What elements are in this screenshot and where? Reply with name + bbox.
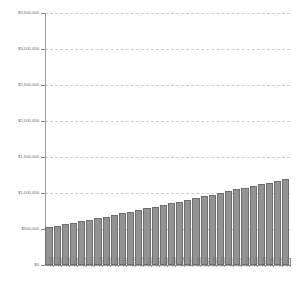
y-axis-tick-label: $1,500,000 [0,155,39,159]
x-axis-tick-label: 2029 [222,257,227,267]
bar [160,205,167,265]
bar [282,179,289,265]
x-axis-tick-label: 2010 [67,257,72,267]
bar [209,195,216,265]
y-axis-tick-label: $2,500,000 [0,83,39,87]
x-axis-tick-label: 2021 [157,257,162,267]
x-axis-tick-label: 2012 [84,257,89,267]
x-axis-tick-label: 2016 [116,257,121,267]
bar [274,181,281,265]
bar [233,189,240,265]
y-axis-tick-label: $3,000,000 [0,47,39,51]
bar [217,193,224,265]
bar [225,191,232,265]
x-axis-tick-label: 2030 [231,257,236,267]
plot-area [45,13,290,265]
bar [241,188,248,265]
x-axis-tick-label: 2025 [190,257,195,267]
bar [176,202,183,266]
x-axis-tick-label: 2028 [214,257,219,267]
x-axis-tick-label: 2027 [206,257,211,267]
bar [201,196,208,265]
x-axis-tick-label: 2032 [247,257,252,267]
x-axis-tick-label: 2018 [133,257,138,267]
x-axis-tick-label: 2014 [100,257,105,267]
y-axis-tick-label: $1,000,000 [0,191,39,195]
x-axis-tick-label: 2026 [198,257,203,267]
bar [258,184,265,265]
bar [192,198,199,265]
x-axis-tick-label: 2011 [75,258,80,267]
x-axis-tick-label: 2034 [263,257,268,267]
x-axis-tick-label: 2009 [59,257,64,267]
x-axis-tick-label: 2022 [165,257,170,267]
x-axis-tick-label: 2008 [51,257,56,267]
x-axis-tick-label: 2033 [255,257,260,267]
x-axis-tick-label: 2013 [92,257,97,267]
x-axis-tick-label: 2023 [173,257,178,267]
x-axis-tick-label: 2031 [239,257,244,267]
x-axis-tick-label: 2036 [280,257,285,267]
x-axis-tick-label: 2024 [182,257,187,267]
x-axis-tick-label: 2015 [108,257,113,267]
bar [168,203,175,265]
y-axis-tick-label: $500,000 [0,227,39,231]
bar [184,200,191,265]
x-axis-tick-label: 2035 [271,257,276,267]
y-axis-tick-label: $2,000,000 [0,119,39,123]
x-axis-labels: 2008200920102011201220132014201520162017… [45,266,290,292]
x-axis-tick-label: 2017 [124,257,129,267]
bar [266,183,273,266]
y-axis-tick-label: $0 [0,263,39,267]
bar [250,186,257,265]
y-axis-tick-label: $3,500,000 [0,11,39,15]
x-axis-tick-label: 2019 [141,257,146,267]
bar-chart: $0$500,000$1,000,000$1,500,000$2,000,000… [0,0,298,292]
x-axis-tick-label: 2020 [149,257,154,267]
x-axis-tick-label: 2037 [288,257,293,267]
